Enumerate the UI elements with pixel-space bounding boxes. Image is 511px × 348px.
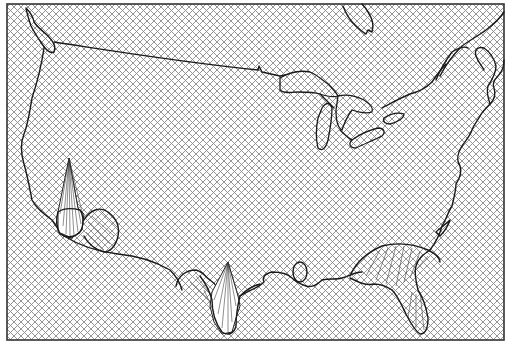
map-canvas [0,0,511,348]
map-frame [7,4,504,340]
us-surface-map [0,0,511,348]
